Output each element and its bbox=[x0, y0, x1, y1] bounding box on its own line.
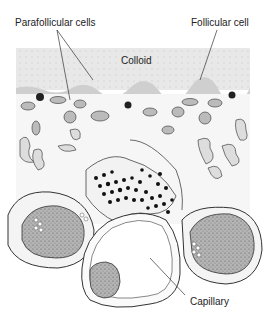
thyroid-illustration bbox=[0, 0, 266, 319]
parafollicular-cells-label: Parafollicular cells bbox=[15, 17, 96, 28]
capillary-label: Capillary bbox=[190, 296, 229, 307]
colloid-label: Colloid bbox=[121, 55, 152, 66]
left-nucleus bbox=[22, 206, 84, 258]
follicular-cell-label: Follicular cell bbox=[191, 17, 249, 28]
right-nucleus bbox=[190, 214, 254, 274]
